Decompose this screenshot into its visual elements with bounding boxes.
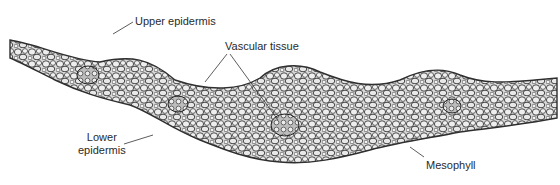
leaf-cross-section-figure — [0, 0, 560, 185]
label-upper-epidermis: Upper epidermis — [135, 15, 216, 28]
label-vascular-tissue: Vascular tissue — [225, 40, 299, 53]
label-lower-epidermis-line2: epidermis — [78, 144, 126, 157]
vascular-bundle-middle-left — [168, 96, 188, 112]
label-lower-epidermis-line1: Lower — [78, 131, 126, 144]
leader-vascular-tissue-left — [205, 54, 227, 82]
vascular-bundle-right — [443, 99, 461, 113]
label-mesophyll: Mesophyll — [426, 159, 476, 172]
leader-lower-epidermis — [124, 135, 153, 144]
leader-mesophyll — [410, 147, 424, 157]
vascular-bundle-left — [77, 66, 99, 84]
leader-upper-epidermis — [113, 22, 133, 34]
vascular-bundle-midrib — [271, 114, 299, 136]
label-lower-epidermis: Lower epidermis — [78, 131, 126, 157]
